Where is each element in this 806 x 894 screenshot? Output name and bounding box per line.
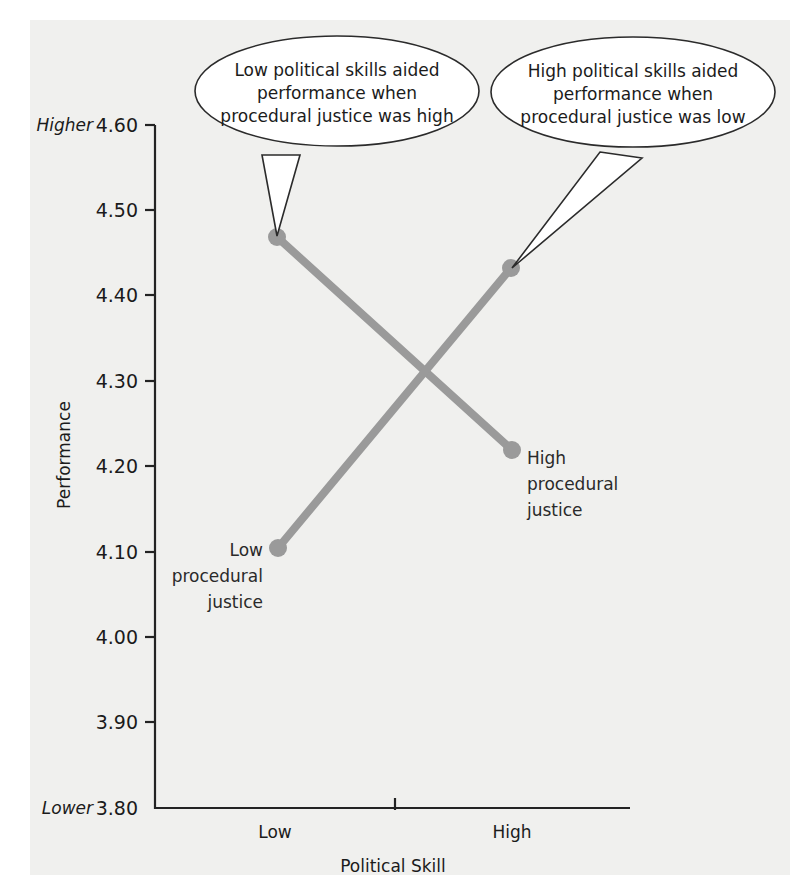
callout-high-line-3: procedural justice was low: [520, 107, 745, 127]
interaction-plot-chart: 4.60 4.50 4.40 4.30 4.20 4.10 4.00 3.90 …: [0, 0, 806, 894]
y-tick-label-4-40: 4.40: [96, 284, 138, 306]
y-axis-title: Performance: [54, 401, 74, 509]
series-line-low-procedural-justice: [278, 268, 511, 548]
callout-low-line-2: performance when: [257, 83, 417, 103]
callout-low-line-3: procedural justice was high: [220, 106, 453, 126]
y-axis-lower-annotation: Lower: [42, 798, 94, 818]
callout-high-line-2: performance when: [553, 84, 713, 104]
series-lines-group: [277, 237, 512, 548]
series-label-low-line-2: procedural: [172, 566, 263, 586]
y-tick-label-4-60: 4.60: [96, 114, 138, 136]
callout-high-line-1: High political skills aided: [528, 61, 739, 81]
series-label-low-line-1: Low: [230, 540, 264, 560]
callout-low-political-skills[interactable]: Low political skills aided performance w…: [195, 36, 479, 236]
y-tick-label-4-00: 4.00: [96, 626, 138, 648]
y-tick-label-3-90: 3.90: [96, 711, 138, 733]
y-tick-label-4-50: 4.50: [96, 199, 138, 221]
x-category-label-high: High: [492, 822, 531, 842]
callout-high-political-skills[interactable]: High political skills aided performance …: [491, 37, 775, 268]
series-label-low-procedural-justice: Low procedural justice: [172, 540, 263, 612]
series-line-high-procedural-justice: [277, 237, 512, 450]
y-tick-label-4-10: 4.10: [96, 541, 138, 563]
x-axis-title: Political Skill: [340, 856, 446, 876]
data-point-high-pj-high-skill[interactable]: [503, 441, 521, 459]
series-label-high-line-2: procedural: [527, 474, 618, 494]
figure-container: 4.60 4.50 4.40 4.30 4.20 4.10 4.00 3.90 …: [0, 0, 806, 894]
series-label-high-procedural-justice: High procedural justice: [526, 448, 618, 520]
x-category-label-low: Low: [258, 822, 292, 842]
callout-high-tail: [512, 152, 642, 268]
y-tick-label-4-30: 4.30: [96, 370, 138, 392]
y-tick-marks: [145, 125, 155, 722]
y-axis-higher-annotation: Higher: [36, 115, 94, 135]
data-point-low-pj-low-skill[interactable]: [269, 539, 287, 557]
series-label-high-line-3: justice: [526, 500, 583, 520]
series-label-low-line-3: justice: [206, 592, 263, 612]
y-tick-label-4-20: 4.20: [96, 455, 138, 477]
y-tick-label-3-80: 3.80: [96, 797, 138, 819]
data-point-markers-group: [268, 228, 521, 557]
series-label-high-line-1: High: [527, 448, 566, 468]
callout-low-tail: [262, 155, 300, 236]
y-tick-labels: 4.60 4.50 4.40 4.30 4.20 4.10 4.00 3.90 …: [96, 114, 138, 819]
callout-low-line-1: Low political skills aided: [234, 60, 439, 80]
